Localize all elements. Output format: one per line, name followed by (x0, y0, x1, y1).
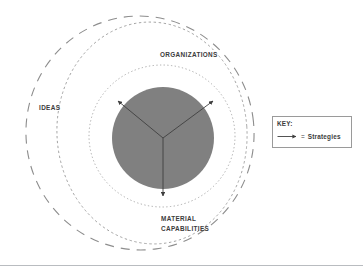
diagram-canvas: IDEAS ORGANIZATIONS MATERIAL CAPABILITIE… (0, 0, 363, 274)
key-title: KEY: (277, 120, 293, 127)
key-arrow-icon (277, 133, 298, 140)
ring-label-material-capabilities: MATERIAL CAPABILITIES (161, 214, 231, 233)
ring-label-organizations: ORGANIZATIONS (160, 50, 218, 59)
bottom-divider (0, 265, 363, 266)
key-legend-box: KEY: = Strategies (272, 116, 352, 148)
ring-label-ideas: IDEAS (39, 103, 60, 112)
key-equals-sign: = (301, 133, 305, 140)
key-entry-strategies: = Strategies (277, 133, 341, 140)
key-entry-label: Strategies (308, 133, 341, 140)
